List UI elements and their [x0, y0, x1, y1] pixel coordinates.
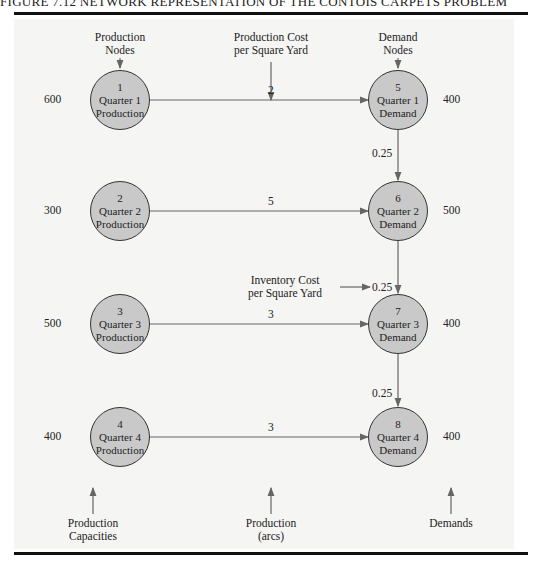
node-label: Quarter 3 [377, 318, 419, 331]
arc-cost-5-6: 0.25 [372, 147, 392, 159]
node-label: Quarter 3 [99, 318, 141, 331]
node-label: Demand [379, 444, 416, 457]
node-label: Production [96, 444, 144, 457]
capacity-1: 600 [44, 93, 61, 105]
label-line: Demands [421, 517, 481, 530]
bottom-rule [14, 552, 528, 555]
node-id: 5 [395, 81, 401, 94]
node-label: Production [96, 218, 144, 231]
node-id: 7 [395, 305, 401, 318]
label-line: Nodes [85, 44, 155, 57]
capacity-3: 500 [44, 317, 61, 329]
node-label: Demand [379, 331, 416, 344]
demand-5: 400 [443, 93, 460, 105]
node-id: 4 [117, 418, 123, 431]
production-node-3: 3 Quarter 3 Production [90, 294, 150, 354]
label-line: Demand [368, 31, 428, 44]
node-label: Quarter 2 [377, 205, 419, 218]
node-label: Demand [379, 218, 416, 231]
label-line: Inventory Cost [235, 274, 335, 287]
production-node-4: 4 Quarter 4 Production [90, 407, 150, 467]
demand-node-7: 7 Quarter 3 Demand [368, 294, 428, 354]
production-nodes-label: Production Nodes [85, 31, 155, 57]
node-id: 2 [117, 192, 123, 205]
capacity-4: 400 [44, 430, 61, 442]
node-id: 1 [117, 81, 123, 94]
demand-7: 400 [443, 317, 460, 329]
inventory-cost-label: Inventory Cost per Square Yard [235, 274, 335, 300]
label-line: Production Cost [221, 31, 321, 44]
arc-cost-3-7: 3 [268, 308, 274, 320]
arc-cost-2-6: 5 [268, 195, 274, 207]
node-label: Quarter 4 [99, 431, 141, 444]
production-arcs-label: Production (arcs) [236, 517, 306, 543]
node-id: 8 [395, 418, 401, 431]
node-label: Quarter 2 [99, 205, 141, 218]
label-line: Production [58, 517, 128, 530]
label-line: (arcs) [236, 530, 306, 543]
production-node-1: 1 Quarter 1 Production [90, 70, 150, 130]
production-cost-label: Production Cost per Square Yard [221, 31, 321, 57]
label-line: Production [85, 31, 155, 44]
production-capacities-label: Production Capacities [58, 517, 128, 543]
label-line: Capacities [58, 530, 128, 543]
label-line: Production [236, 517, 306, 530]
node-label: Quarter 1 [99, 94, 141, 107]
demand-nodes-label: Demand Nodes [368, 31, 428, 57]
arc-cost-1-5: 2 [268, 84, 274, 96]
label-line: per Square Yard [221, 44, 321, 57]
node-label: Quarter 4 [377, 431, 419, 444]
node-label: Production [96, 107, 144, 120]
label-line: Nodes [368, 44, 428, 57]
node-id: 3 [117, 305, 123, 318]
demand-8: 400 [443, 430, 460, 442]
demands-label: Demands [421, 517, 481, 530]
demand-node-6: 6 Quarter 2 Demand [368, 181, 428, 241]
label-line: per Square Yard [235, 287, 335, 300]
node-id: 6 [395, 192, 401, 205]
production-node-2: 2 Quarter 2 Production [90, 181, 150, 241]
capacity-2: 300 [44, 204, 61, 216]
node-label: Production [96, 331, 144, 344]
arc-cost-7-8: 0.25 [372, 387, 392, 399]
demand-6: 500 [443, 204, 460, 216]
arc-cost-4-8: 3 [268, 421, 274, 433]
node-label: Demand [379, 107, 416, 120]
arc-cost-6-7: 0.25 [372, 281, 392, 293]
demand-node-8: 8 Quarter 4 Demand [368, 407, 428, 467]
demand-node-5: 5 Quarter 1 Demand [368, 70, 428, 130]
node-label: Quarter 1 [377, 94, 419, 107]
